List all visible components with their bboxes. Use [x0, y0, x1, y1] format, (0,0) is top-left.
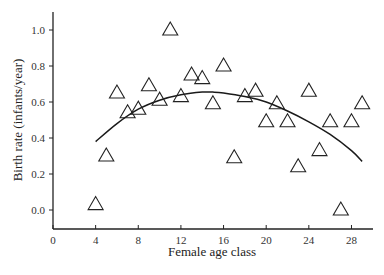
- y-tick-label: 0.6: [31, 96, 45, 108]
- triangle-marker-icon: [333, 202, 348, 215]
- triangle-marker-icon: [184, 67, 199, 80]
- data-points: [88, 22, 370, 215]
- triangle-marker-icon: [88, 197, 103, 210]
- triangle-marker-icon: [280, 114, 295, 127]
- triangle-marker-icon: [259, 114, 274, 127]
- scatter-chart: 04812162024280.00.20.40.60.81.0 Female a…: [0, 0, 384, 275]
- triangle-marker-icon: [355, 96, 370, 109]
- x-tick-label: 0: [50, 234, 56, 246]
- triangle-marker-icon: [163, 22, 178, 35]
- x-axis-label: Female age class: [168, 244, 256, 259]
- x-tick-label: 4: [93, 234, 99, 246]
- triangle-marker-icon: [323, 114, 338, 127]
- y-tick-label: 1.0: [31, 24, 45, 36]
- triangle-marker-icon: [301, 83, 316, 96]
- y-tick-label: 0.0: [31, 204, 45, 216]
- x-tick-label: 8: [136, 234, 142, 246]
- x-tick-label: 20: [261, 234, 273, 246]
- triangle-marker-icon: [344, 114, 359, 127]
- y-tick-label: 0.8: [31, 60, 45, 72]
- triangle-marker-icon: [109, 85, 124, 98]
- triangle-marker-icon: [216, 58, 231, 71]
- y-axis-label: Birth rate (infants/year): [10, 59, 25, 182]
- triangle-marker-icon: [141, 78, 156, 91]
- triangle-marker-icon: [99, 148, 114, 161]
- triangle-marker-icon: [248, 83, 263, 96]
- triangle-marker-icon: [205, 96, 220, 109]
- triangle-marker-icon: [312, 143, 327, 156]
- y-tick-label: 0.2: [31, 168, 45, 180]
- x-tick-label: 28: [346, 234, 358, 246]
- y-tick-label: 0.4: [31, 132, 45, 144]
- triangle-marker-icon: [291, 159, 306, 172]
- x-tick-label: 24: [303, 234, 315, 246]
- triangle-marker-icon: [227, 150, 242, 163]
